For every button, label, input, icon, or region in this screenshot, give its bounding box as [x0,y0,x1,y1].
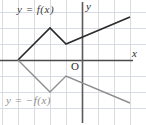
equation-label-negative-f-of-x: y = −f(x) [6,95,51,106]
y-axis-label: y [86,1,91,12]
origin-label: O [71,61,79,72]
graph-figure: y = f(x) y = −f(x) y x O [0,0,146,125]
equation-label-f-of-x: y = f(x) [17,4,54,15]
x-axis-label: x [132,48,137,59]
